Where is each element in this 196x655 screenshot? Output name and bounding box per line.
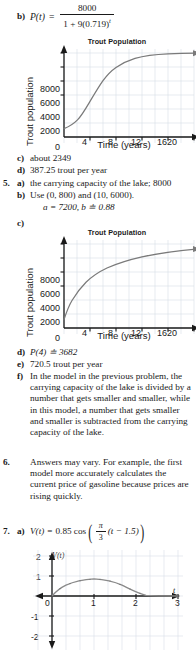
formula-equals: = [49,11,54,22]
chart-plot-area [33,550,183,655]
item-text: Answers may vary. For example, the first… [17,457,196,502]
answer-5d: d) P(4) ≐ 3682 [0,347,196,358]
x-tick-1: 1 [91,598,96,608]
item-text: about 2349 [30,153,196,164]
answer-7a: 7. a) V(t) = 0.85 cos ( π 3 (t − 1.5) ) [0,520,196,543]
y-tick-2000: 2000 [26,317,60,327]
item-number: 5. [0,178,17,189]
formula7-coefficient: 0.85 cos [55,526,86,537]
formula7-equals: = [47,526,52,537]
formula-exponent: t [109,17,111,24]
logistic-curve [64,53,196,128]
chart-trout-shifted-exponential: Trout Population Trout population 8000 6… [0,228,196,344]
grid-lines [33,550,183,650]
answer-5f: f) In the model in the previous problem,… [0,371,196,438]
formula-denominator: 1 + 9(0.719)t [60,15,114,30]
open-paren: ( [88,522,92,542]
answer-5e: e) 720.5 trout per year [0,359,196,370]
curve-arrow [193,50,196,56]
y-tick-0: 0 [26,142,60,152]
item-number: 7. [0,526,17,537]
item-text: 387.25 trout per year [30,165,196,176]
item-letter: d) [17,165,30,176]
item-letter: b) [17,11,30,22]
formula-lhs: P(t) [30,11,45,22]
close-paren: ) [140,522,144,542]
item-letter: a) [17,526,30,537]
chart-plot-area [62,236,196,342]
chart-plot-area [62,45,196,151]
y-tick-6000: 6000 [26,98,60,108]
answer-6: 6. Answers may vary. For example, the fi… [0,457,196,502]
item-text: Use (0, 800) and (10, 6000). [30,190,196,201]
item-text: 720.5 trout per year [30,359,196,370]
y-tick-6000: 6000 [26,289,60,299]
y-tick-2000: 2000 [26,126,60,136]
cosine-curve [52,579,178,596]
shifted-exp-curve [64,249,196,319]
item-number: 6. [0,457,17,468]
answer-5b: b) Use (0, 800) and (10, 6000). a = 7200… [0,190,196,213]
y-tick-8000: 8000 [26,84,60,94]
x-axis-left-arrow [35,593,43,599]
y-tick-8000: 8000 [26,275,60,285]
y-tick-4000: 4000 [26,112,60,122]
axes [41,558,173,642]
x-tick-0: 0 [45,598,50,608]
curve-arrow [193,246,196,252]
item-text: In the model in the previous problem, th… [30,371,196,438]
chart-voltage-cosine: 2 1 -1 -2 V(t) t [0,550,196,655]
item-letter: c) [17,153,30,164]
item-text: the carrying capacity of the lake; 8000 [30,178,196,189]
formula-numerator: 8000 [60,3,114,15]
item-letter: a) [17,178,30,189]
formula7-lhs: V(t) [30,526,44,537]
item-letter: d) [17,347,30,358]
x-tick-3: 3 [175,598,180,608]
item-letter: e) [17,359,30,370]
y-axis-down-arrow [49,641,55,649]
answer-key-page: b) P(t) = 8000 1 + 9(0.719)t Trout Popul… [0,0,196,655]
chart-trout-logistic: Trout Population Trout population 8000 6… [0,37,196,153]
curve-sample-dots [59,579,140,594]
item-letter: b) [17,190,30,201]
answer-5a: 5. a) the carrying capacity of the lake;… [0,178,196,189]
x-axis-label-1: Time (years) [62,139,186,150]
y-tick-0: 0 [26,333,60,343]
y-axis-arrow [61,45,67,53]
axes [64,50,193,137]
grid-lines [64,240,194,334]
x-axis-label-2: Time (years) [62,330,186,341]
formula7-frac-denominator: 3 [96,532,106,543]
answer-4c: c) about 2349 [0,153,196,164]
item-text: P(4) ≐ 3682 [30,347,196,358]
x-tick-2: 2 [133,598,138,608]
answer-4b: b) P(t) = 8000 1 + 9(0.719)t [0,3,196,30]
formula7-tail: (t − 1.5) [108,526,139,537]
answer-4d: d) 387.25 trout per year [0,165,196,176]
y-tick-4000: 4000 [26,303,60,313]
grid-lines [64,49,194,143]
item-letter: f) [17,371,30,382]
y-axis-arrow [61,236,67,244]
item-subtext: a = 7200, b ≐ 0.88 [43,202,196,213]
formula7-frac-numerator: π [96,520,106,532]
